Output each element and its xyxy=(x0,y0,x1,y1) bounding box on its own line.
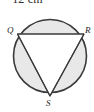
figure-container: = 12 cm Q R S xyxy=(0,0,94,112)
geometry-drawing xyxy=(0,0,94,112)
vertex-label-S: S xyxy=(46,99,51,108)
vertex-label-R: R xyxy=(85,26,91,35)
vertex-label-Q: Q xyxy=(7,26,14,35)
